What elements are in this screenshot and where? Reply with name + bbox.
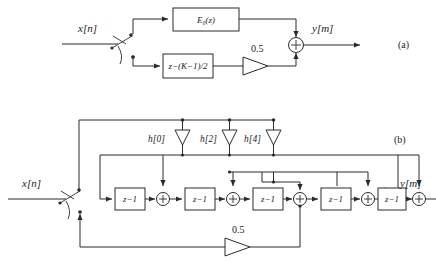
panel-b-final-chain: z−1 y[m] [378, 177, 436, 210]
panel-a-delay-block-label: z−(K−1)/2 [167, 61, 208, 71]
panel-b-tap-2-label: h[2] [200, 134, 217, 144]
panel-a-lower-branch-wire [133, 57, 160, 66]
panel-a-lower-branch-node [131, 55, 134, 58]
panel-a-input-label: x[n] [77, 22, 97, 34]
panel-b-tap-4: h[4] [244, 118, 281, 155]
panel-b-commutator-switch[interactable] [58, 188, 81, 219]
panel-a-gain-triangle: 0.5 [243, 43, 268, 75]
panel-b-delay-block-4-label: z−1 [328, 194, 343, 204]
panel-a-commutator-switch[interactable] [110, 33, 134, 64]
panel-b-tap-0: h[0] [148, 118, 190, 155]
panel-a-gain-output-wire [268, 53, 296, 66]
panel-b-tap-4-label: h[4] [244, 134, 261, 144]
panel-a-upper-branch-wire [133, 19, 168, 34]
panel-a-label: (a) [398, 39, 409, 51]
panel-b: x[n] z−1 z−1 [8, 120, 384, 219]
panel-b-bus-node-4 [272, 153, 275, 156]
panel-b-bus-172-node [228, 170, 231, 173]
panel-b-adder-5 [413, 193, 426, 206]
panel-b-tap-0-label: h[0] [148, 134, 165, 144]
panel-b-adder-2 [227, 193, 240, 206]
panel-a-gain-label: 0.5 [251, 43, 264, 54]
panel-b-label: (b) [394, 134, 406, 146]
panel-b-feedback: 0.5 [80, 204, 302, 256]
panel-b-feedback-return [80, 214, 225, 247]
panel-b-feedback-from-adder3 [250, 206, 300, 247]
panel-b-adder-4 [362, 193, 375, 206]
panel-a-adder [289, 38, 304, 53]
panel-b-gain-label: 0.5 [232, 224, 245, 235]
panel-b-gain-triangle [225, 238, 250, 256]
panel-b-taps: h[0] h[2] h[4] [100, 118, 419, 190]
panel-b-delay-block-3-label: z−1 [260, 194, 275, 204]
panel-b-delay-block-1-label: z−1 [122, 194, 137, 204]
panel-a: x[n] E₀(z) z−(K−1)/2 0.5 [62, 8, 409, 78]
figure-container: x[n] E₀(z) z−(K−1)/2 0.5 [0, 0, 436, 263]
panel-a-output-label: y[m] [311, 22, 333, 34]
panel-b-tap-2: h[2] [200, 118, 237, 155]
panel-b-adder-1 [157, 193, 170, 206]
panel-b-bus-node-0 [181, 153, 184, 156]
panel-b-bus-node-2 [228, 153, 231, 156]
panel-b-delay-block-2-label: z−1 [192, 194, 207, 204]
panel-b-delay-block-5-label: z−1 [384, 194, 399, 204]
panel-b-adder-3 [294, 193, 307, 206]
panel-b-feedback-node [298, 204, 301, 207]
panel-b-input-label: x[n] [21, 177, 41, 189]
panel-a-upper-output-wire [239, 19, 296, 37]
panel-b-output-label: y[m] [399, 177, 421, 189]
panel-a-polyphase-block-label: E₀(z) [196, 15, 215, 25]
